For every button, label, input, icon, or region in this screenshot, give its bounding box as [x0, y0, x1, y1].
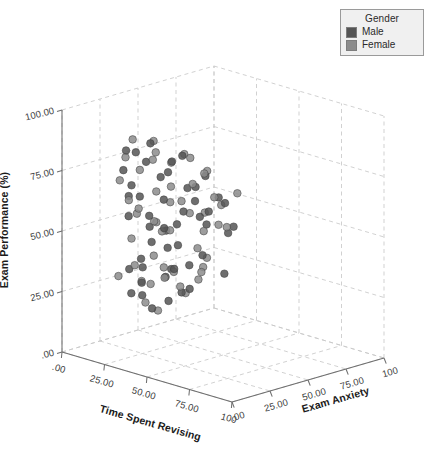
legend-item-female: Female — [346, 39, 418, 51]
x-axis-tick — [231, 402, 232, 408]
y-axis-tick — [57, 171, 62, 172]
z-axis-tick — [270, 391, 272, 397]
z-axis-tick — [308, 380, 310, 386]
legend: Gender Male Female — [340, 9, 424, 56]
x-axis-tick — [104, 365, 105, 371]
z-axis-tick — [384, 358, 386, 364]
x-axis-tick — [189, 390, 190, 396]
legend-swatch-female — [346, 40, 357, 51]
y-axis-tick — [57, 231, 62, 232]
scatter-plot-3d: .0025.0050.0075.00100.00.0025.0050.0075.… — [0, 0, 434, 449]
z-axis-tick — [346, 369, 348, 375]
y-axis-tick — [57, 352, 62, 353]
legend-label-female: Female — [362, 39, 395, 51]
legend-item-male: Male — [346, 26, 418, 38]
x-axis-tick — [146, 377, 147, 383]
legend-title: Gender — [346, 13, 418, 24]
y-axis-tick — [57, 110, 62, 111]
legend-label-male: Male — [362, 26, 384, 38]
x-axis-tick — [61, 352, 62, 358]
axis-lines-layer — [0, 0, 434, 449]
plot-scene — [0, 0, 434, 449]
y-axis-tick — [57, 292, 62, 293]
y-axis-title: Exam Performance (%) — [0, 172, 10, 288]
legend-swatch-male — [346, 27, 357, 38]
